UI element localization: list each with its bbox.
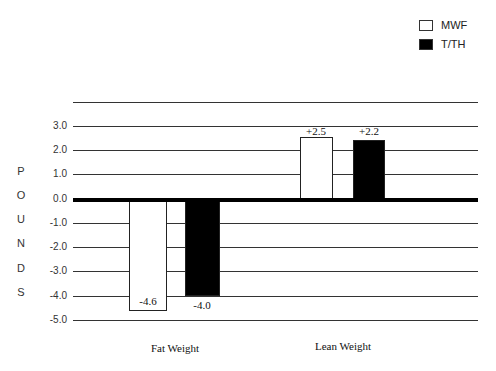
y-label-letter: O (14, 189, 28, 201)
y-tick: -3.0 (27, 265, 67, 276)
y-label-letter: U (14, 213, 28, 225)
zero-baseline (73, 198, 478, 202)
gridline (73, 126, 478, 127)
bar-label-lean-mwf: +2.5 (291, 125, 341, 137)
gridline-top (73, 102, 478, 103)
bar-lean-tth (353, 140, 385, 200)
category-label-fat-weight: Fat Weight (115, 342, 235, 354)
y-label-letter: D (14, 262, 28, 274)
y-tick: -4.0 (27, 290, 67, 301)
bar-lean-mwf (300, 137, 333, 200)
y-tick: 3.0 (27, 120, 67, 131)
legend-label-mwf: MWF (441, 19, 467, 31)
y-tick: -2.0 (27, 241, 67, 252)
y-label-letter: S (14, 286, 28, 298)
legend-swatch-tth (419, 39, 433, 50)
gridline (73, 150, 478, 151)
category-label-lean-weight: Lean Weight (283, 340, 403, 352)
y-tick: -5.0 (27, 314, 67, 325)
bar-label-fat-mwf: -4.6 (123, 295, 173, 307)
bar-label-lean-tth: +2.2 (344, 125, 394, 137)
bar-chart: MWF T/TH P O U N D S 3.0 2.0 1.0 0.0 -1.… (0, 0, 496, 371)
y-tick: 2.0 (27, 144, 67, 155)
y-tick: -1.0 (27, 217, 67, 228)
legend-label-tth: T/TH (441, 38, 465, 50)
gridline (73, 320, 478, 321)
gridline (73, 174, 478, 175)
y-tick: 1.0 (27, 168, 67, 179)
legend-swatch-mwf (419, 20, 433, 31)
bar-fat-tth (185, 199, 220, 296)
y-label-letter: N (14, 237, 28, 249)
y-tick: 0.0 (27, 193, 67, 204)
bar-label-fat-tth: -4.0 (177, 299, 227, 311)
y-label-letter: P (14, 165, 28, 177)
